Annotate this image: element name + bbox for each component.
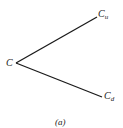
node-down-text: C	[104, 90, 111, 101]
node-down-label: Cd	[104, 91, 114, 104]
node-root-label: C	[6, 58, 13, 68]
node-down-subscript: d	[111, 95, 115, 103]
figure-caption: (a)	[55, 118, 66, 127]
node-up-label: Cu	[98, 9, 108, 22]
node-up-text: C	[98, 8, 105, 19]
edge-root-to-up	[16, 17, 97, 63]
node-up-subscript: u	[105, 13, 109, 21]
node-root-text: C	[6, 57, 13, 68]
edge-root-to-down	[16, 63, 102, 97]
